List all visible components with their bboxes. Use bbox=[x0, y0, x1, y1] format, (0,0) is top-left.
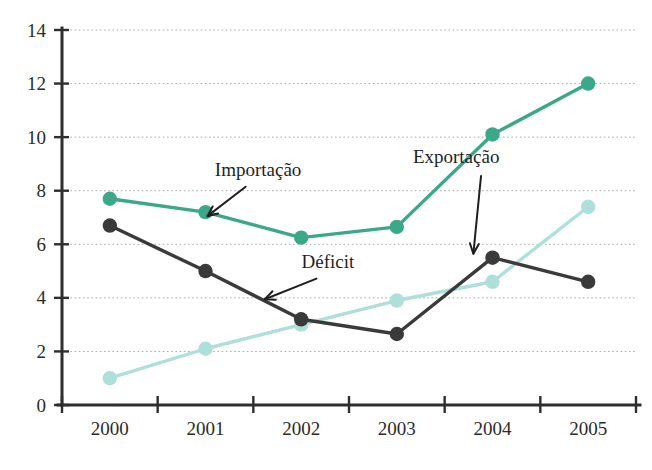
x-tick-label: 2000 bbox=[91, 418, 129, 439]
annotation-arrow-exportao bbox=[473, 176, 481, 254]
chart-container: 02468101214 200020012002200320042005 Imp… bbox=[0, 0, 652, 470]
y-axis bbox=[54, 28, 69, 405]
x-tick-label: 2003 bbox=[378, 418, 416, 439]
y-tick-label: 12 bbox=[27, 73, 46, 94]
y-tick-label: 0 bbox=[37, 395, 47, 416]
data-point-importação-2004 bbox=[485, 127, 499, 141]
gridlines bbox=[62, 30, 636, 405]
annotation-label-dficit: Déficit bbox=[302, 251, 355, 272]
x-tick-labels: 200020012002200320042005 bbox=[91, 418, 607, 439]
x-tick-label: 2002 bbox=[282, 418, 320, 439]
y-tick-label: 2 bbox=[37, 341, 47, 362]
data-point-exportação-2000 bbox=[103, 371, 117, 385]
series-line-importação bbox=[110, 84, 588, 238]
y-tick-label: 14 bbox=[27, 20, 47, 41]
series-line-déficit bbox=[110, 226, 588, 334]
y-tick-label: 4 bbox=[37, 287, 47, 308]
data-point-importação-2000 bbox=[103, 192, 117, 206]
annotation-label-importao: Importação bbox=[215, 159, 302, 180]
annotation-arrow-dficit bbox=[265, 279, 317, 300]
line-chart: 02468101214 200020012002200320042005 Imp… bbox=[0, 0, 652, 470]
data-point-importação-2005 bbox=[581, 76, 595, 90]
data-point-déficit-2000 bbox=[103, 218, 117, 232]
annotation-label-exportao: Exportação bbox=[413, 146, 500, 167]
data-point-déficit-2005 bbox=[581, 275, 595, 289]
data-point-déficit-2003 bbox=[390, 327, 404, 341]
data-point-exportação-2004 bbox=[485, 275, 499, 289]
y-tick-label: 10 bbox=[27, 127, 46, 148]
y-tick-label: 6 bbox=[37, 234, 47, 255]
data-point-exportação-2003 bbox=[390, 293, 404, 307]
x-tick-label: 2005 bbox=[569, 418, 607, 439]
x-axis bbox=[58, 396, 640, 413]
annotation-arrows bbox=[207, 176, 481, 300]
x-tick-label: 2004 bbox=[474, 418, 513, 439]
annotation-labels: ImportaçãoDéficitExportação bbox=[215, 146, 500, 272]
data-point-exportação-2001 bbox=[198, 342, 212, 356]
y-tick-labels: 02468101214 bbox=[27, 20, 47, 416]
data-point-importação-2002 bbox=[294, 230, 308, 244]
data-point-déficit-2001 bbox=[198, 264, 212, 278]
x-tick-label: 2001 bbox=[187, 418, 225, 439]
y-tick-label: 8 bbox=[37, 180, 47, 201]
data-point-exportação-2005 bbox=[581, 200, 595, 214]
data-point-déficit-2002 bbox=[294, 312, 308, 326]
data-point-importação-2003 bbox=[390, 220, 404, 234]
series-lines bbox=[110, 84, 588, 379]
data-point-déficit-2004 bbox=[485, 250, 499, 264]
